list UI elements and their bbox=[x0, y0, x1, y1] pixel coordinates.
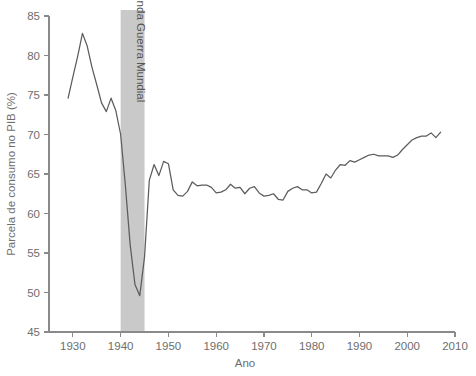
y-tick-label: 75 bbox=[27, 89, 40, 101]
x-axis-ticks: 193019401950196019701980199020002010 bbox=[60, 332, 468, 352]
line-chart: Segunda Guerra Mundial 45505560657075808… bbox=[0, 0, 476, 376]
y-axis-ticks: 455055606570758085 bbox=[27, 10, 49, 338]
y-tick-label: 70 bbox=[27, 129, 40, 141]
x-tick-label: 1960 bbox=[203, 340, 229, 352]
x-axis-title: Ano bbox=[235, 357, 255, 369]
y-tick-label: 80 bbox=[27, 50, 40, 62]
x-tick-label: 2000 bbox=[394, 340, 420, 352]
y-tick-label: 65 bbox=[27, 168, 40, 180]
chart-container: Segunda Guerra Mundial 45505560657075808… bbox=[0, 0, 476, 376]
y-tick-label: 60 bbox=[27, 208, 40, 220]
wwii-band-label: Segunda Guerra Mundial bbox=[135, 0, 147, 102]
y-tick-label: 50 bbox=[27, 287, 40, 299]
axes-group bbox=[49, 16, 455, 332]
y-tick-label: 45 bbox=[27, 326, 40, 338]
x-tick-label: 1990 bbox=[347, 340, 373, 352]
x-tick-label: 1980 bbox=[299, 340, 325, 352]
x-tick-label: 1950 bbox=[156, 340, 182, 352]
x-tick-label: 1970 bbox=[251, 340, 277, 352]
y-tick-label: 55 bbox=[27, 247, 40, 259]
x-tick-label: 2010 bbox=[442, 340, 468, 352]
x-tick-label: 1930 bbox=[60, 340, 86, 352]
x-tick-label: 1940 bbox=[108, 340, 134, 352]
y-tick-label: 85 bbox=[27, 10, 40, 22]
y-axis-title: Parcela de consumo no PIB (%) bbox=[5, 92, 17, 256]
war-band-group: Segunda Guerra Mundial bbox=[121, 0, 147, 332]
